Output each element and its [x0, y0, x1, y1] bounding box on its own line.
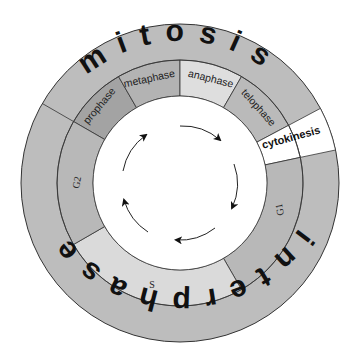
s-label: S: [149, 279, 155, 290]
g2-label: G2: [70, 175, 83, 189]
g1-label: G1: [273, 203, 286, 217]
cell-cycle-diagram: mitosis interphase prophase metaphase an…: [0, 0, 352, 355]
center-circle: [93, 96, 267, 270]
